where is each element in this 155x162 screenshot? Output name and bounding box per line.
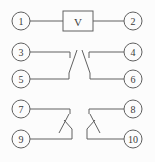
relay-diagram: V12345678910 — [0, 0, 155, 162]
terminal-5-label: 5 — [19, 74, 24, 85]
coil-label: V — [74, 16, 82, 28]
terminal-1-label: 1 — [19, 16, 24, 27]
terminal-8-label: 8 — [131, 104, 136, 115]
terminal-4-label: 4 — [131, 47, 136, 58]
terminal-7-label: 7 — [19, 104, 24, 115]
terminal-9-label: 9 — [19, 134, 24, 145]
terminal-2-label: 2 — [131, 16, 136, 27]
terminal-3-label: 3 — [19, 47, 24, 58]
terminal-6-label: 6 — [131, 74, 136, 85]
relay-schematic-canvas: V12345678910 — [0, 0, 155, 162]
terminal-10-label: 10 — [128, 134, 138, 145]
